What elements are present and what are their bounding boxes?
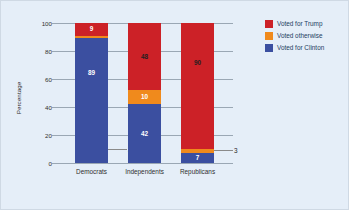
bar-label-republicans-otherwise: 3 bbox=[234, 147, 238, 154]
bar-segment-independents-otherwise[interactable]: 10 bbox=[128, 90, 161, 104]
bar-label-independents-trump: 48 bbox=[128, 53, 161, 59]
tickmark-60 bbox=[52, 79, 56, 80]
tickmark-80 bbox=[52, 51, 56, 52]
tickmark-40 bbox=[52, 107, 56, 108]
legend-label-trump: Voted for Trump bbox=[277, 20, 322, 27]
bar-label-independents-clinton: 42 bbox=[128, 130, 161, 136]
bar-segment-independents-clinton[interactable]: 42 bbox=[128, 104, 161, 163]
bar-segment-democrats-clinton[interactable]: 89 bbox=[75, 38, 108, 163]
bar-democrats[interactable]: 9 89 bbox=[75, 23, 108, 163]
legend-swatch-otherwise-icon bbox=[265, 32, 273, 40]
legend-item-voted-otherwise[interactable]: Voted otherwise bbox=[265, 30, 324, 41]
bar-label-republicans-clinton: 7 bbox=[181, 155, 214, 161]
y-tick-label-0: 0 bbox=[49, 160, 52, 167]
bar-label-republicans-trump: 90 bbox=[181, 60, 214, 66]
y-tick-label-100: 100 bbox=[42, 20, 52, 27]
chart-legend: Voted for Trump Voted otherwise Voted fo… bbox=[265, 18, 324, 54]
legend-item-voted-for-clinton[interactable]: Voted for Clinton bbox=[265, 42, 324, 53]
bar-segment-democrats-trump[interactable]: 9 bbox=[75, 23, 108, 36]
bar-label-democrats-trump: 9 bbox=[75, 26, 108, 32]
y-tick-label-80: 80 bbox=[45, 48, 52, 55]
bar-independents[interactable]: 48 10 42 bbox=[128, 23, 161, 163]
plot-area: 0 20 40 60 80 100 9 89 bbox=[56, 23, 233, 163]
callout-line-republicans-otherwise bbox=[214, 150, 233, 151]
bar-segment-republicans-trump[interactable]: 90 bbox=[181, 23, 214, 149]
tickmark-20 bbox=[52, 135, 56, 136]
tickmark-100 bbox=[52, 23, 56, 24]
legend-item-voted-for-trump[interactable]: Voted for Trump bbox=[265, 18, 324, 29]
bar-label-democrats-clinton: 89 bbox=[75, 70, 108, 76]
chart-figure: Percentage 0 20 40 60 80 100 bbox=[0, 0, 349, 210]
callout-line-democrats-otherwise bbox=[108, 149, 127, 150]
bar-republicans[interactable]: 90 7 bbox=[181, 23, 214, 163]
y-axis-title: Percentage bbox=[15, 63, 22, 133]
x-tick-label-republicans: Republicans bbox=[162, 168, 234, 175]
legend-label-clinton: Voted for Clinton bbox=[277, 44, 324, 51]
bar-segment-republicans-clinton[interactable]: 7 bbox=[181, 153, 214, 163]
bar-segment-independents-trump[interactable]: 48 bbox=[128, 23, 161, 90]
legend-swatch-trump-icon bbox=[265, 20, 273, 28]
y-tick-label-40: 40 bbox=[45, 104, 52, 111]
legend-label-otherwise: Voted otherwise bbox=[277, 32, 322, 39]
y-tick-label-20: 20 bbox=[45, 132, 52, 139]
y-tick-label-60: 60 bbox=[45, 76, 52, 83]
gridline-0: 0 bbox=[56, 163, 233, 164]
legend-swatch-clinton-icon bbox=[265, 44, 273, 52]
tickmark-0 bbox=[52, 163, 56, 164]
bar-label-independents-otherwise: 10 bbox=[128, 94, 161, 100]
